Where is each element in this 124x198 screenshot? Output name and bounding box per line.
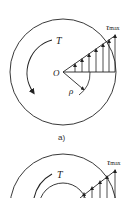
torque-arrow-icon xyxy=(27,40,52,92)
figure-a: T O τmax ρ a) xyxy=(10,19,120,142)
stress-arrows xyxy=(75,36,115,72)
caption-a: a) xyxy=(58,133,65,142)
rho-label: ρ xyxy=(68,86,74,96)
tau-max-label: τmax xyxy=(106,22,120,32)
figure-b: T τmax xyxy=(10,154,121,198)
stress-distribution-line xyxy=(63,35,116,72)
hollow-section-inner xyxy=(39,183,87,198)
tau-max-label-b: τmax xyxy=(107,157,121,167)
torsion-diagram: T O τmax ρ a) T xyxy=(0,0,124,198)
torque-label-b: T xyxy=(57,169,64,180)
center-label: O xyxy=(53,68,60,78)
stress-arrows-b xyxy=(84,171,115,198)
rho-arc xyxy=(79,72,90,95)
torque-label: T xyxy=(56,35,63,46)
